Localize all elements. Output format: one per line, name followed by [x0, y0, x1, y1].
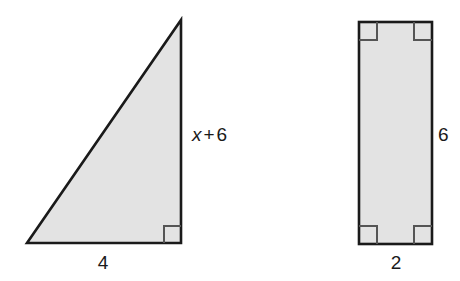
rectangle-shape [359, 22, 432, 244]
triangle-base-label: 4 [98, 253, 109, 272]
triangle-height-constant: 6 [217, 124, 228, 145]
triangle-height-operator: + [202, 124, 217, 145]
geometry-figure-canvas [0, 0, 460, 281]
rectangle-height-label: 6 [438, 125, 449, 144]
rectangle-width-label: 2 [391, 253, 402, 272]
rectangle-outline [359, 22, 432, 244]
triangle-height-variable: x [192, 124, 202, 145]
triangle-height-label: x+6 [192, 125, 227, 144]
